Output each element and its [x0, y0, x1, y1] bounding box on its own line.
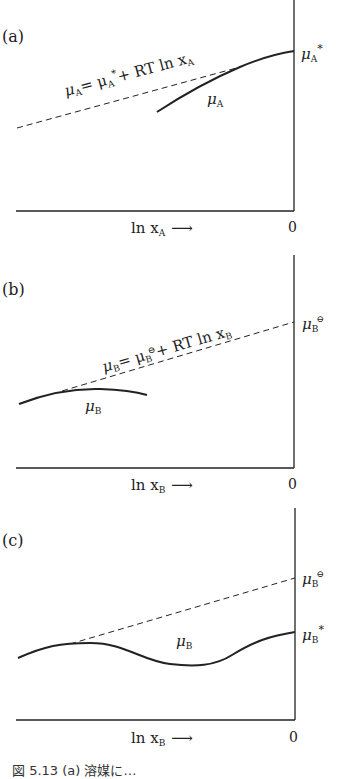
panel-a-right-label: μA* — [301, 42, 323, 64]
panel-c-label: (c) — [2, 531, 23, 550]
panel-a-label: (a) — [2, 27, 24, 46]
svg-text:μA= μA*+ RT ln xA: μA= μA*+ RT ln xA — [62, 47, 195, 101]
panel-c-curve-label: μB — [176, 632, 193, 651]
panel-b-right-label: μB⊖ — [302, 314, 324, 334]
panel-c-zero-tick: 0 — [289, 729, 298, 745]
panel-c-mu-curve — [18, 632, 295, 665]
panel-a: (a) μA= μA*+ RT ln xA μA μA* ln xA⟶ 0 — [2, 0, 323, 238]
panel-b: (b) μB= μB⊖+ RT ln xB μB μB⊖ ln xB⟶ 0 — [2, 255, 324, 495]
panel-a-equation: μA= μA*+ RT ln xA — [62, 47, 195, 101]
panel-a-zero-tick: 0 — [288, 219, 297, 235]
panel-b-mu-curve — [19, 389, 147, 404]
panel-b-curve-label: μB — [85, 397, 102, 416]
panel-b-x-label: ln xB⟶ — [131, 476, 193, 495]
panel-a-curve-label: μA — [207, 90, 224, 109]
panel-c: (c) μB μB⊖ μB* ln xB⟶ 0 — [2, 508, 324, 748]
figure-caption: 図 5.13 (a) 溶媒に… — [12, 760, 136, 779]
panel-b-ideal-line — [62, 322, 294, 391]
panel-c-right-label-pure: μB* — [302, 623, 324, 645]
panel-c-x-label: ln xB⟶ — [131, 729, 193, 748]
panel-b-equation: μB= μB⊖+ RT ln xB — [100, 322, 234, 377]
panel-a-x-label: ln xA⟶ — [131, 219, 193, 238]
panel-b-label: (b) — [2, 280, 25, 299]
panel-b-zero-tick: 0 — [288, 476, 297, 492]
svg-text:μB= μB⊖+ RT ln xB: μB= μB⊖+ RT ln xB — [100, 322, 234, 377]
panel-c-right-label-standard: μB⊖ — [302, 569, 324, 589]
